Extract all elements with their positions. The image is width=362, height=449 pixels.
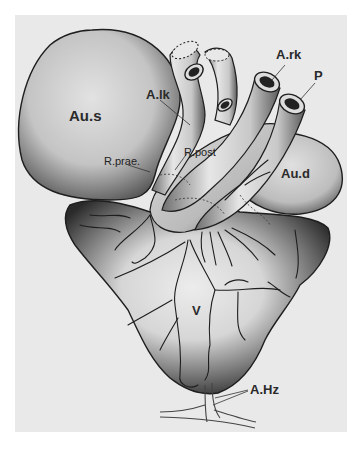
label-apex-artery: A.Hz <box>250 383 279 396</box>
label-right-arch: A.rk <box>276 48 301 61</box>
heart-illustration <box>0 0 362 449</box>
label-r-prae: R.prae. <box>104 156 140 167</box>
label-pulmonary: P <box>314 69 323 82</box>
label-r-post: R.post <box>184 147 216 158</box>
label-ventricle: V <box>192 304 201 317</box>
label-right-atrium: Au.d <box>281 167 310 180</box>
label-left-atrium: Au.s <box>69 108 102 123</box>
label-left-arch: A.lk <box>146 88 170 101</box>
